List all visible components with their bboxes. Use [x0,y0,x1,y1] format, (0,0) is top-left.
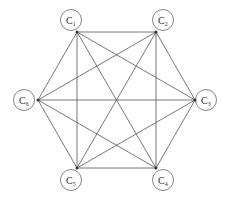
complete-graph-diagram: C1C2C3C4C5C6 [0,0,231,202]
node-c5: C5 [61,167,82,191]
edge-c2-c6 [38,32,156,100]
edge-c2-c3 [156,32,195,100]
node-point [37,99,40,102]
edge-c5-c6 [38,100,77,168]
edge-c4-c6 [38,100,156,168]
node-point [155,31,158,34]
edge-c1-c6 [38,32,77,100]
node-point [194,99,197,102]
node-c3: C3 [194,90,217,111]
node-c4: C4 [153,167,174,191]
node-point [76,31,79,34]
node-c2: C2 [153,10,174,34]
node-c6: C6 [14,90,40,111]
node-point [76,167,79,170]
edge-c3-c4 [156,100,195,168]
edges [38,32,195,168]
node-c1: C1 [61,10,82,34]
node-point [155,167,158,170]
edge-c3-c5 [77,100,195,168]
